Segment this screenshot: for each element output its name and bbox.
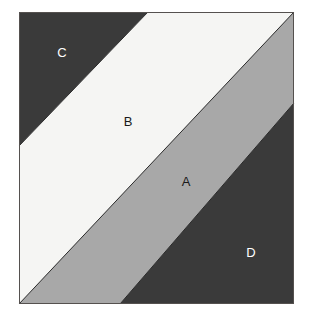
region-label-c: C bbox=[57, 45, 66, 60]
figure-container: C B A D bbox=[0, 0, 312, 319]
region-label-b: B bbox=[124, 114, 133, 129]
region-label-a: A bbox=[182, 174, 191, 189]
region-label-d: D bbox=[246, 245, 255, 260]
diagonal-bands-figure: C B A D bbox=[0, 0, 312, 319]
